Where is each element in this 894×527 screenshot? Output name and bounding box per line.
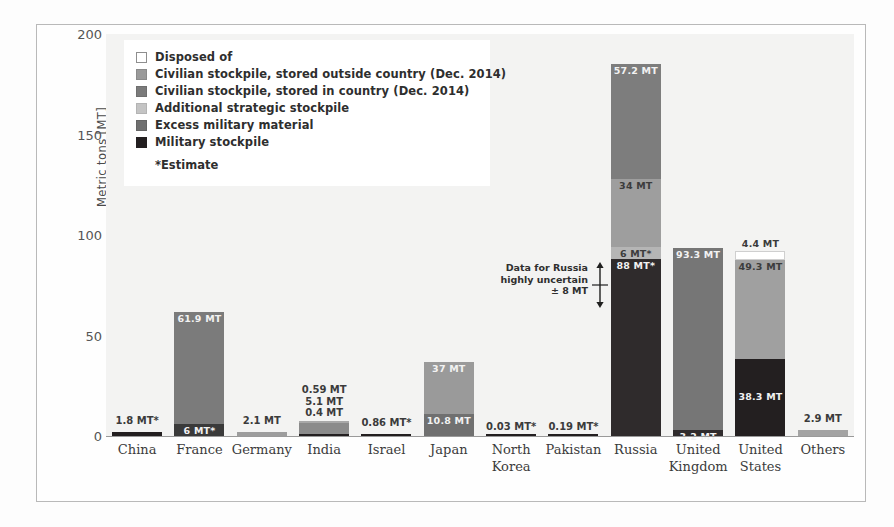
x-tick-label-line: France bbox=[168, 441, 230, 458]
x-tick-label: NorthKorea bbox=[480, 441, 542, 475]
x-tick-label: Japan bbox=[418, 441, 480, 458]
x-tick-label-line: States bbox=[729, 458, 791, 475]
figure-canvas: Metric tons [MT] 200150100500 1.8 MT*61.… bbox=[0, 0, 894, 527]
legend-item[interactable]: Excess military material bbox=[136, 118, 478, 132]
bar-segment[interactable]: 6 MT* bbox=[611, 247, 661, 259]
legend-swatch-icon bbox=[136, 69, 147, 80]
legend-swatch-icon bbox=[136, 137, 147, 148]
x-tick-label: China bbox=[106, 441, 168, 458]
x-tick-label-line: India bbox=[293, 441, 355, 458]
x-tick-label-line: Russia bbox=[605, 441, 667, 458]
x-tick-label: UnitedKingdom bbox=[667, 441, 729, 475]
bar-value-label: 2.1 MT bbox=[243, 415, 281, 426]
legend-item-label: Civilian stockpile, stored outside count… bbox=[155, 67, 506, 81]
x-tick-label-line: United bbox=[667, 441, 729, 458]
segment-value-label: 88 MT* bbox=[611, 261, 661, 271]
segment-value-label: 37 MT bbox=[424, 364, 474, 374]
segment-value-label: 10.8 MT bbox=[424, 416, 474, 426]
segment-value-label: 38.3 MT bbox=[735, 392, 785, 402]
y-tick-label: 150 bbox=[56, 127, 102, 142]
x-tick-label: India bbox=[293, 441, 355, 458]
legend-item-label: Additional strategic stockpile bbox=[155, 101, 349, 115]
legend-item[interactable]: Additional strategic stockpile bbox=[136, 101, 478, 115]
y-tick-label: 0 bbox=[56, 429, 102, 444]
bar-value-label: 0.4 MT bbox=[302, 407, 347, 419]
segment-value-label: 61.9 MT bbox=[174, 314, 224, 324]
bar-value-label: 0.19 MT* bbox=[548, 421, 598, 432]
legend-item[interactable]: Civilian stockpile, stored outside count… bbox=[136, 67, 478, 81]
x-tick-label: UnitedStates bbox=[729, 441, 791, 475]
legend-item[interactable]: Military stockpile bbox=[136, 135, 478, 149]
x-tick-label-line: Pakistan bbox=[542, 441, 604, 458]
bar-stack[interactable] bbox=[299, 421, 349, 436]
x-tick-label-line: Germany bbox=[231, 441, 293, 458]
bar-segment[interactable]: 49.3 MT bbox=[735, 260, 785, 359]
bar-segment[interactable] bbox=[299, 423, 349, 433]
legend-item-label: Civilian stockpile, stored in country (D… bbox=[155, 84, 469, 98]
x-axis-labels: ChinaFranceGermanyIndiaIsraelJapanNorthK… bbox=[106, 441, 854, 497]
legend-swatch-icon bbox=[136, 103, 147, 114]
bar-slot: 93.3 MT3.2 MT bbox=[667, 34, 729, 436]
annotation-line-1: Data for Russia bbox=[478, 262, 588, 274]
bar-slot: 4.4 MT49.3 MT38.3 MT bbox=[729, 34, 791, 436]
bar-value-label: 0.59 MT bbox=[302, 384, 347, 396]
legend-swatch-icon bbox=[136, 86, 147, 97]
bar-stack[interactable]: 4.4 MT49.3 MT38.3 MT bbox=[735, 251, 785, 436]
legend-item[interactable]: Disposed of bbox=[136, 50, 478, 64]
x-tick-label-line: Japan bbox=[418, 441, 480, 458]
bar-slot: 57.2 MT34 MT6 MT*88 MT* bbox=[605, 34, 667, 436]
x-tick-label: Pakistan bbox=[542, 441, 604, 458]
legend-item-label: Excess military material bbox=[155, 118, 314, 132]
segment-value-label: 93.3 MT bbox=[673, 250, 723, 260]
x-tick-label-line: United bbox=[729, 441, 791, 458]
legend-swatch-icon bbox=[136, 120, 147, 131]
x-tick-label-line: Others bbox=[792, 441, 854, 458]
bar-value-label: 2.9 MT bbox=[804, 413, 842, 424]
legend-estimate-note: *Estimate bbox=[155, 158, 478, 172]
bar-segment[interactable]: 93.3 MT bbox=[673, 248, 723, 429]
segment-value-label: 4.4 MT bbox=[736, 239, 784, 249]
y-tick-label: 50 bbox=[56, 328, 102, 343]
bar-stack[interactable]: 61.9 MT6 MT* bbox=[174, 312, 224, 436]
russia-uncertainty-annotation: Data for Russia highly uncertain ± 8 MT bbox=[478, 262, 588, 297]
bar-segment[interactable]: 37 MT bbox=[424, 362, 474, 415]
segment-value-label: 6 MT* bbox=[611, 249, 661, 259]
x-tick-label-line: Kingdom bbox=[667, 458, 729, 475]
bar-value-label: 0.03 MT* bbox=[486, 421, 536, 432]
bar-segment[interactable]: 88 MT* bbox=[611, 259, 661, 436]
chart-legend: Disposed ofCivilian stockpile, stored ou… bbox=[124, 40, 490, 186]
x-tick-label: Others bbox=[792, 441, 854, 458]
bar-value-label-group: 0.59 MT5.1 MT0.4 MT bbox=[302, 384, 347, 419]
legend-rows: Disposed ofCivilian stockpile, stored ou… bbox=[136, 50, 478, 149]
x-tick-label-line: Korea bbox=[480, 458, 542, 475]
bar-segment[interactable]: 6 MT* bbox=[174, 424, 224, 436]
y-tick-label: 100 bbox=[56, 228, 102, 243]
bar-slot: 2.9 MT bbox=[792, 34, 854, 436]
x-tick-label-line: North bbox=[480, 441, 542, 458]
bar-segment[interactable]: 4.4 MT bbox=[735, 251, 785, 260]
legend-item[interactable]: Civilian stockpile, stored in country (D… bbox=[136, 84, 478, 98]
bar-value-label: 5.1 MT bbox=[302, 396, 347, 408]
x-tick-label: Russia bbox=[605, 441, 667, 458]
x-tick-label: France bbox=[168, 441, 230, 458]
annotation-line-2: highly uncertain bbox=[478, 274, 588, 286]
bar-segment[interactable]: 10.8 MT bbox=[424, 414, 474, 436]
segment-value-label: 57.2 MT bbox=[611, 66, 661, 76]
bar-value-label: 0.86 MT* bbox=[361, 417, 411, 428]
uncertainty-arrow-icon bbox=[592, 262, 608, 308]
bar-stack[interactable]: 37 MT10.8 MT bbox=[424, 362, 474, 436]
bar-stack[interactable]: 93.3 MT3.2 MT bbox=[673, 248, 723, 436]
annotation-line-3: ± 8 MT bbox=[478, 285, 588, 297]
legend-item-label: Disposed of bbox=[155, 50, 232, 64]
bar-segment[interactable]: 61.9 MT bbox=[174, 312, 224, 424]
x-tick-label-line: Israel bbox=[355, 441, 417, 458]
bar-segment[interactable]: 38.3 MT bbox=[735, 359, 785, 436]
bar-segment[interactable]: 34 MT bbox=[611, 179, 661, 247]
bar-stack[interactable]: 57.2 MT34 MT6 MT*88 MT* bbox=[611, 64, 661, 436]
x-axis-baseline bbox=[106, 436, 854, 437]
segment-value-label: 34 MT bbox=[611, 181, 661, 191]
bar-segment[interactable]: 57.2 MT bbox=[611, 64, 661, 179]
legend-swatch-icon bbox=[136, 52, 147, 63]
y-axis-ticks: 200150100500 bbox=[46, 34, 102, 436]
x-tick-label-line: China bbox=[106, 441, 168, 458]
